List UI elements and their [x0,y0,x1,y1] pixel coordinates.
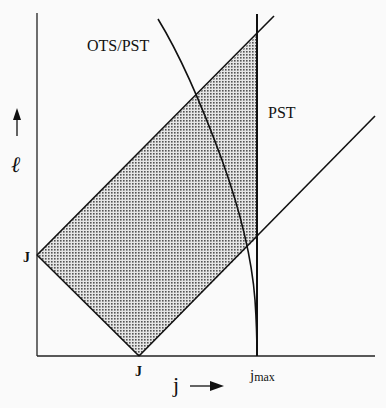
y-tick-J: J [23,250,30,265]
x-tick-J: J [135,364,142,379]
diagram-canvas: OTS/PST PST ℓ J J j jmax [0,0,386,408]
x-axis-label: j [172,372,179,397]
x-tick-jmax-sub: max [254,370,275,384]
y-axis-label: ℓ [11,152,21,177]
x-axis-arrow-icon [190,381,224,391]
pst-label: PST [268,104,296,121]
x-tick-jmax: jmax [249,367,275,384]
ots-pst-label: OTS/PST [87,37,149,54]
y-axis-arrow-icon [13,108,21,136]
allowed-region [37,35,257,356]
